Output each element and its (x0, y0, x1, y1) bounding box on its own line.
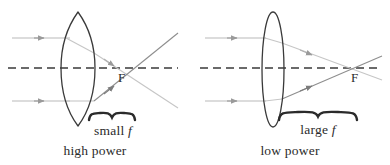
focal-length-prefix-right: large (300, 122, 328, 137)
refracted-ray-upper-right (282, 43, 382, 80)
internal-rays-left (66, 38, 94, 101)
focal-point-label-right-text: F (351, 70, 358, 85)
focal-length-label-left: small f (94, 123, 132, 139)
focal-point-label-left: F (118, 70, 125, 86)
refracted-rays-right (282, 43, 382, 99)
internal-rays-right (265, 38, 282, 101)
lens-thick-biconvex (61, 12, 95, 126)
brace-path-right (279, 112, 357, 120)
focal-length-symbol-left: f (128, 123, 132, 138)
brace-path-left (89, 113, 135, 120)
refracted-ray-upper-right-arrow (300, 50, 312, 55)
focal-point-label-right: F (351, 70, 358, 86)
focal-length-brace-left (89, 113, 135, 120)
refracted-ray-lower-right (282, 56, 382, 99)
internal-ray-lower-right (265, 99, 282, 101)
optics-figure: F F small f large f high power low power (0, 0, 390, 165)
refracted-rays-left (94, 33, 178, 108)
focal-length-symbol-right: f (332, 122, 336, 137)
internal-ray-upper-right (265, 38, 282, 43)
focal-length-label-right: large f (300, 122, 335, 138)
focal-length-prefix-left: small (94, 123, 124, 138)
diagram-canvas (0, 0, 390, 165)
refracted-ray-lower-right-arrow (300, 86, 312, 91)
lens-thin-biconvex (262, 12, 284, 127)
focal-point-label-left-text: F (118, 70, 125, 85)
panel-high-power (8, 12, 178, 126)
focal-length-brace-right (279, 112, 357, 120)
refracted-ray-upper-left-arrow (104, 59, 114, 66)
panel-caption-low-power: low power (260, 143, 319, 159)
internal-ray-upper-left (66, 38, 94, 53)
refracted-ray-lower-left-arrow (104, 86, 114, 94)
refracted-ray-lower-left (94, 33, 178, 101)
panel-caption-high-power: high power (63, 143, 126, 159)
incoming-rays-right (205, 38, 266, 101)
